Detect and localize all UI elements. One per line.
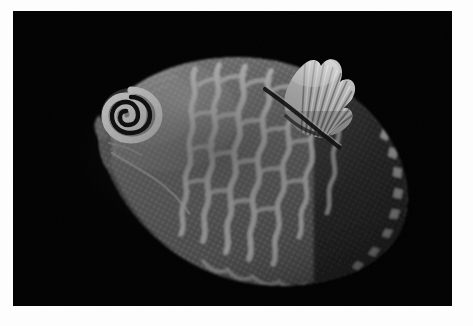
beaded-fish-artwork xyxy=(13,11,452,306)
photograph xyxy=(13,11,452,306)
photo-frame: Beaded fish sculpture photograph Oval be… xyxy=(0,0,473,326)
film-grain xyxy=(13,11,452,306)
